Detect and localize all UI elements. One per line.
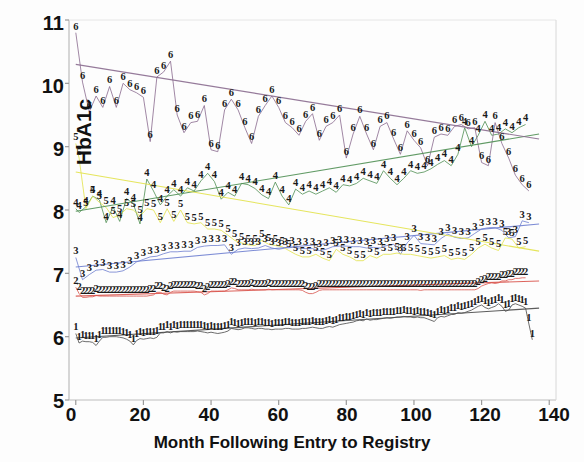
point-label-5: 5	[401, 242, 406, 253]
point-label-6: 6	[283, 110, 288, 121]
point-label-3: 3	[100, 257, 105, 268]
point-label-5: 5	[293, 242, 298, 253]
point-label-4: 4	[279, 184, 285, 195]
point-label-6: 6	[161, 60, 166, 71]
point-label-4: 4	[232, 184, 238, 195]
point-label-3: 3	[134, 250, 139, 261]
point-label-4: 4	[144, 167, 150, 178]
point-label-6: 6	[181, 121, 186, 132]
point-label-5: 5	[239, 231, 244, 242]
point-label-4: 4	[388, 166, 394, 177]
point-label-3: 3	[175, 240, 180, 251]
point-label-5: 5	[428, 246, 433, 257]
point-label-5: 5	[131, 198, 136, 209]
point-label-4: 4	[273, 170, 279, 181]
point-label-5: 5	[449, 247, 454, 258]
point-label-5: 5	[455, 246, 460, 257]
point-label-4: 4	[523, 112, 529, 123]
point-label-4: 4	[381, 159, 387, 170]
point-label-5: 5	[421, 245, 426, 256]
y-axis-tick-labels: 11 10 9 8 7 6 5	[20, 0, 64, 462]
point-label-4: 4	[509, 121, 515, 132]
point-label-4: 4	[394, 173, 400, 184]
point-label-6: 6	[330, 110, 335, 121]
point-label-4: 4	[164, 184, 170, 195]
point-label-4: 4	[455, 142, 461, 153]
point-label-4: 4	[219, 187, 225, 198]
x-tick-40: 40	[179, 404, 239, 426]
y-tick-8: 8	[24, 201, 64, 224]
point-label-3: 3	[127, 255, 132, 266]
point-label-5: 5	[205, 217, 210, 228]
point-label-5: 5	[340, 242, 345, 253]
point-label-6: 6	[222, 98, 227, 109]
point-label-3: 3	[486, 216, 491, 227]
point-label-5: 5	[158, 211, 163, 222]
point-label-1: 1	[526, 312, 531, 323]
point-label-4: 4	[225, 180, 231, 191]
point-label-5: 5	[198, 211, 203, 222]
point-label-5: 5	[509, 227, 514, 238]
point-label-5: 5	[306, 245, 311, 256]
trend-line-6	[76, 64, 539, 139]
point-label-5: 5	[523, 235, 528, 246]
point-label-3: 3	[161, 242, 166, 253]
point-label-5: 5	[273, 233, 278, 244]
point-label-4: 4	[306, 179, 312, 190]
point-label-6: 6	[127, 78, 132, 89]
point-label-4: 4	[104, 211, 110, 222]
point-label-3: 3	[229, 242, 234, 253]
point-label-4: 4	[347, 174, 353, 185]
point-label-3: 3	[459, 226, 464, 237]
point-label-5: 5	[212, 217, 217, 228]
point-label-5: 5	[374, 246, 379, 257]
point-label-4: 4	[449, 154, 455, 165]
point-label-6: 6	[506, 146, 511, 157]
point-label-5: 5	[347, 245, 352, 256]
point-label-3: 3	[93, 258, 98, 269]
point-label-5: 5	[259, 228, 264, 239]
point-label-6: 6	[432, 125, 437, 136]
point-label-5: 5	[381, 242, 386, 253]
point-label-3: 3	[526, 211, 531, 222]
point-label-4: 4	[313, 182, 319, 193]
point-label-3: 3	[107, 260, 112, 271]
point-label-6: 6	[296, 123, 301, 134]
point-label-5: 5	[516, 236, 521, 247]
point-label-5: 5	[117, 203, 122, 214]
point-label-3: 3	[222, 233, 227, 244]
point-label-4: 4	[286, 193, 292, 204]
point-label-4: 4	[442, 148, 448, 159]
point-label-3: 3	[465, 226, 470, 237]
point-label-6: 6	[154, 65, 159, 76]
point-label-4: 4	[401, 166, 407, 177]
point-label-3: 3	[405, 231, 410, 242]
point-label-4: 4	[300, 182, 306, 193]
x-tick-100: 100	[386, 404, 446, 426]
point-label-6: 6	[452, 114, 457, 125]
point-label-6: 6	[465, 117, 470, 128]
point-label-6: 6	[114, 95, 119, 106]
point-label-6: 6	[350, 122, 355, 133]
point-label-5: 5	[178, 198, 183, 209]
point-label-6: 6	[148, 129, 153, 140]
point-label-5: 5	[334, 237, 339, 248]
point-label-5: 5	[313, 242, 318, 253]
point-label-6: 6	[472, 116, 477, 127]
point-label-3: 3	[438, 226, 443, 237]
point-label-3: 3	[208, 233, 213, 244]
point-label-4: 4	[435, 152, 441, 163]
point-label-3: 3	[168, 240, 173, 251]
point-label-4: 4	[327, 176, 333, 187]
point-label-4: 4	[198, 169, 204, 180]
point-label-5: 5	[354, 249, 359, 260]
point-label-6: 6	[520, 173, 525, 184]
point-label-3: 3	[357, 235, 362, 246]
point-label-6: 6	[202, 93, 207, 104]
point-label-3: 3	[418, 231, 423, 242]
point-label-4: 4	[151, 179, 157, 190]
point-label-5: 5	[327, 249, 332, 260]
point-label-5: 5	[110, 205, 115, 216]
point-label-3: 3	[452, 225, 457, 236]
y-tick-9: 9	[24, 138, 64, 161]
